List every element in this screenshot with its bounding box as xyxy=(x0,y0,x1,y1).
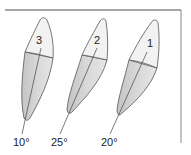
tooth-number-1: 1 xyxy=(147,37,153,49)
angle-label-25: 25° xyxy=(51,136,68,148)
tooth-number-2: 2 xyxy=(94,34,100,46)
tooth-angulation-diagram: 3 10° 2 25° 1 20° xyxy=(0,0,191,155)
angle-label-20: 20° xyxy=(101,136,118,148)
angle-label-10: 10° xyxy=(13,136,30,148)
tooth-2: 2 25° xyxy=(51,19,108,148)
tooth-3: 3 10° xyxy=(13,18,53,148)
tooth-1: 1 20° xyxy=(101,20,159,148)
tooth-number-3: 3 xyxy=(36,34,42,46)
